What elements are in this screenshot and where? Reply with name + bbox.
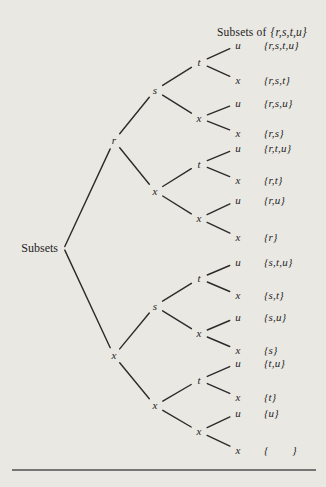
subset-label: {s,t} [264,289,284,301]
subset-label: {s} [264,344,278,356]
tree-node-label: s [153,84,157,96]
tree-node-label: t [197,272,201,284]
tree-edge [120,313,150,349]
tree-edge [120,363,150,399]
tree-edge [207,266,229,276]
subset-label: {r} [264,231,278,243]
subset-label: {r,s,t,u} [264,39,299,51]
tree-node-label: t [197,158,201,170]
subset-label: {r,s} [264,127,284,139]
tree-node-label: x [196,112,202,124]
tree-edge [207,106,229,115]
tree-edge [163,385,191,402]
tree-node-label: x [235,174,241,186]
subset-label: {s,t,u} [264,256,293,268]
subset-label: {t} [264,391,277,403]
tree-edge [163,196,192,214]
diagram-title: Subsets of{r,s,t,u} [217,26,307,39]
tree-edge [207,151,229,160]
tree-edge [120,148,150,185]
subset-label: { } [264,444,297,456]
tree-edge [163,410,191,427]
tree-node-label: x [152,399,158,411]
tree-edge [207,66,230,76]
subset-label: {r,t} [264,174,283,186]
tree-edge [65,149,110,247]
tree-node-label: x [235,74,241,86]
tree-edge [207,49,230,59]
subset-label: {r,u} [264,194,286,206]
subset-label: {t,u} [264,357,286,369]
tree-labels: u{r,s,t,u}x{r,s,t}tu{r,s,u}x{r,s}xsu{r,t… [21,39,299,456]
root-label: Subsets [21,241,58,255]
tree-node-label: u [235,357,241,369]
tree-node-label: u [235,407,241,419]
tree-edge [207,222,230,233]
tree-edge [207,417,230,428]
tree-edge [207,321,229,331]
tree-node-label: u [235,39,241,51]
tree-edge [120,97,150,134]
tree-node-label: r [112,134,117,146]
diagram-title-prefix: Subsets of [217,26,267,38]
subset-label: {s,u} [264,311,287,323]
tree-edge [163,169,192,187]
tree-node-label: u [235,142,241,154]
tree-edge [163,283,192,301]
tree-node-label: t [197,56,201,68]
tree-node-label: x [235,231,241,243]
diagram-title-set: {r,s,t,u} [271,26,307,39]
subset-label: {r,s,t} [264,74,290,86]
tree-edge [163,311,192,329]
tree-node-label: u [235,256,241,268]
tree-edge [163,67,192,85]
tree-node-label: x [235,289,241,301]
tree-edge [207,384,229,394]
tree-edge [163,95,192,113]
tree-edges [65,49,230,446]
scanned-page: Subsets of{r,s,t,u} u{r,s,t,u}x{r,s,t}tu… [0,0,326,487]
subset-label: {r,s,u} [264,97,293,109]
tree-node-label: x [196,212,202,224]
tree-node-label: x [235,344,241,356]
tree-node-label: x [235,391,241,403]
tree-edge [207,282,229,292]
tree-edge [207,337,229,347]
tree-node-label: x [235,444,241,456]
tree-edge [207,121,229,130]
tree-node-label: x [235,127,241,139]
tree-edge [207,367,229,377]
tree-edge [207,435,230,446]
subset-label: {u} [264,407,279,419]
subset-label: {r,t,u} [264,142,292,154]
tree-edge [207,167,229,176]
tree-node-label: u [235,194,241,206]
tree-node-label: x [196,327,202,339]
tree-node-label: x [111,349,117,361]
tree-node-label: x [152,185,158,197]
tree-node-label: u [235,311,241,323]
tree-node-label: x [196,425,202,437]
subset-tree-diagram: Subsets of{r,s,t,u} u{r,s,t,u}x{r,s,t}tu… [0,0,326,487]
tree-node-label: s [153,300,157,312]
tree-node-label: u [235,97,241,109]
tree-edge [65,250,110,348]
tree-node-label: t [197,374,201,386]
tree-edge [207,204,230,215]
